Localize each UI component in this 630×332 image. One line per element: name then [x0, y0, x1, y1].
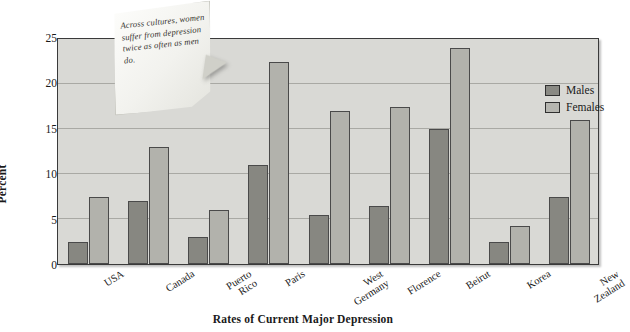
legend-swatch-females-icon	[545, 102, 560, 113]
bar-group	[549, 39, 590, 264]
x-tick-label: Korea	[525, 268, 553, 291]
bar-females	[450, 48, 470, 264]
bar-females	[390, 107, 410, 265]
legend-item-males: Males	[545, 84, 604, 96]
bar-group	[369, 39, 410, 264]
x-tick-label: Canada	[164, 268, 197, 294]
bar-group	[309, 39, 350, 264]
y-tick-label: 15	[17, 123, 57, 135]
legend: Males Females	[541, 81, 610, 121]
bar-females	[209, 210, 229, 264]
bar-group	[429, 39, 470, 264]
bar-group	[68, 39, 109, 264]
bar-males	[128, 201, 148, 264]
bar-females	[510, 226, 530, 264]
bar-group	[489, 39, 530, 264]
x-axis: USACanadaPuerto RicoParisWest GermanyFlo…	[0, 265, 606, 313]
legend-label-males: Males	[566, 84, 594, 96]
callout-note: Across cultures, women suffer from depre…	[113, 4, 212, 112]
callout-tail-icon	[202, 55, 227, 83]
x-tick-label: Florence	[406, 268, 443, 297]
bar-males	[549, 197, 569, 265]
callout-note-text: Across cultures, women suffer from depre…	[120, 12, 210, 67]
x-tick-label: Puerto Rico	[224, 268, 259, 301]
bar-group	[248, 39, 289, 264]
bar-females	[269, 62, 289, 265]
y-tick-label: 20	[17, 77, 57, 89]
legend-label-females: Females	[566, 101, 604, 113]
x-tick-label: New Zealand	[586, 268, 626, 305]
bar-males	[369, 206, 389, 265]
y-tick-label: 10	[17, 168, 57, 180]
bar-males	[309, 215, 329, 265]
chart-title: Rates of Current Major Depression	[0, 313, 606, 325]
bar-females	[89, 197, 109, 265]
x-tick-label: USA	[102, 268, 126, 288]
y-axis-title: Percent	[0, 165, 8, 204]
bar-males	[68, 242, 88, 265]
bar-males	[188, 237, 208, 264]
x-tick-label: Paris	[283, 268, 307, 288]
legend-item-females: Females	[545, 101, 604, 113]
bar-females	[149, 147, 169, 264]
bar-males	[429, 129, 449, 264]
x-tick-label: West Germany	[346, 268, 391, 307]
y-tick-label: 25	[17, 32, 57, 44]
x-tick-label: Beirut	[464, 268, 492, 291]
bar-males	[248, 165, 268, 264]
bar-males	[489, 242, 509, 265]
bar-females	[330, 111, 350, 264]
y-tick-label: 5	[17, 214, 57, 226]
bar-females	[570, 120, 590, 264]
legend-swatch-males-icon	[545, 85, 560, 96]
